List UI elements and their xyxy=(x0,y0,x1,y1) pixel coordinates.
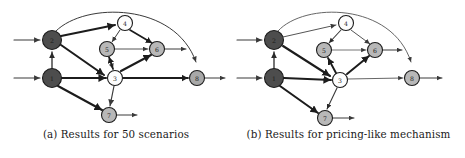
node-label-5: 5 xyxy=(105,46,109,53)
figure-pair: 21456387 (a) Results for 50 scenarios 21… xyxy=(0,0,465,158)
edge-3-to-6 xyxy=(347,56,369,74)
caption-subfigure-b: (b) Results for pricing-like mechanism xyxy=(232,128,465,140)
graph-b: 21456387 xyxy=(232,0,465,130)
node-label-5: 5 xyxy=(322,47,326,54)
caption-subfigure-a: (a) Results for 50 scenarios xyxy=(0,128,232,140)
node-label-1: 1 xyxy=(272,75,276,82)
edge-2-to-4 xyxy=(283,25,336,37)
node-label-4: 4 xyxy=(344,20,348,27)
edge-3-to-7 xyxy=(110,86,114,106)
node-label-6: 6 xyxy=(373,47,377,54)
node-group-b: 21456387 xyxy=(265,16,420,126)
subfigure-b: 21456387 (b) Results for pricing-like me… xyxy=(232,0,465,158)
edge-4-to-6 xyxy=(351,30,370,44)
node-label-7: 7 xyxy=(107,112,111,119)
edge-1-to-7 xyxy=(280,86,318,113)
node-label-2: 2 xyxy=(272,37,276,44)
graph-a: 21456387 xyxy=(0,0,232,130)
node-label-6: 6 xyxy=(155,46,159,53)
subfigure-a: 21456387 (a) Results for 50 scenarios xyxy=(0,0,232,158)
edge-1-to-3 xyxy=(284,78,331,80)
edge-3-to-8 xyxy=(348,78,403,79)
edge-3-to-6 xyxy=(121,55,151,71)
edge-2-to-3 xyxy=(61,45,104,75)
edge-3-to-5 xyxy=(109,57,113,69)
node-label-2: 2 xyxy=(50,37,54,44)
edge-group-b xyxy=(237,12,442,118)
network-graph-a-svg: 21456387 xyxy=(0,0,232,130)
edge-4-to-5 xyxy=(329,30,341,43)
node-label-8: 8 xyxy=(410,75,414,82)
node-label-4: 4 xyxy=(123,20,127,27)
node-label-1: 1 xyxy=(50,75,54,82)
edge-4-to-5 xyxy=(112,30,120,42)
edge-1-to-7 xyxy=(58,86,102,110)
node-label-3: 3 xyxy=(113,75,117,82)
edge-2-to-4 xyxy=(61,25,115,36)
edge-3-to-5 xyxy=(328,58,336,73)
node-label-8: 8 xyxy=(195,75,199,82)
node-label-7: 7 xyxy=(323,115,327,122)
network-graph-b-svg: 21456387 xyxy=(232,0,465,130)
edge-3-to-7 xyxy=(327,88,337,109)
edge-4-to-6 xyxy=(130,30,152,43)
node-label-3: 3 xyxy=(338,77,342,84)
